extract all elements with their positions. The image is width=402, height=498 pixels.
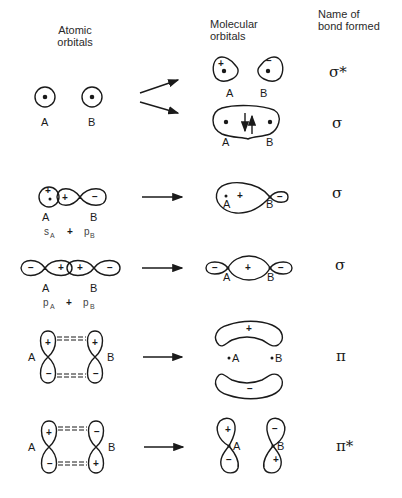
atom-label-a: A xyxy=(42,211,50,223)
atom-label-a: A xyxy=(41,116,49,128)
mo-label-b: B xyxy=(277,440,284,452)
sign-plus: + xyxy=(246,323,252,334)
sign-plus: + xyxy=(237,190,243,201)
row-p-p-axial: − + + − A B p A + p B − + − A B σ xyxy=(21,256,345,310)
arrow-up-icon xyxy=(140,80,178,93)
arrow-down-icon xyxy=(140,102,178,113)
svg-text:p: p xyxy=(43,297,49,308)
mo-label-b: B xyxy=(275,352,282,364)
mo-sigma-bonding xyxy=(213,106,279,139)
sign-minus: − xyxy=(212,262,218,273)
sign-plus: + xyxy=(92,337,98,348)
sign-minus: − xyxy=(94,426,100,437)
bond-sigma: σ xyxy=(335,256,345,274)
atomic-s-orbital-b xyxy=(82,87,102,107)
row-s-p: + + − A B s A + p B + − A B σ xyxy=(39,183,342,239)
atom-label-b: B xyxy=(88,116,95,128)
sign-plus: + xyxy=(77,262,83,273)
svg-text:A: A xyxy=(50,303,55,310)
svg-text:+: + xyxy=(67,226,73,237)
mo-label-a: A xyxy=(226,87,234,99)
sign-plus: + xyxy=(245,262,251,273)
sign-minus: − xyxy=(226,454,232,465)
atomic-s-orbital-a xyxy=(35,87,55,107)
sign-plus: + xyxy=(58,262,64,273)
sign-minus: − xyxy=(93,368,99,379)
mo-label-a: A xyxy=(232,352,240,364)
svg-text:B: B xyxy=(90,232,95,239)
row-s-s: A B + − A B σ* A B σ xyxy=(35,55,347,148)
sign-plus: + xyxy=(46,427,52,438)
svg-text:s: s xyxy=(44,226,49,237)
sign-minus: − xyxy=(266,55,272,66)
atom-label-a: A xyxy=(28,351,36,363)
sign-plus: + xyxy=(225,424,231,435)
row-pi: + − + − A B + − A B π xyxy=(28,321,346,399)
mo-label-a: A xyxy=(222,136,230,148)
atom-label-b: B xyxy=(108,441,115,453)
mo-label-b: B xyxy=(260,87,267,99)
atom-label-a: A xyxy=(28,441,36,453)
mo-label-b: B xyxy=(267,271,274,283)
bond-sigma: σ xyxy=(332,114,342,132)
combination-label: p A + p B xyxy=(43,297,95,310)
bond-pi: π xyxy=(336,347,346,365)
sign-plus: + xyxy=(62,192,68,203)
mo-label-a: A xyxy=(223,271,231,283)
sign-minus: − xyxy=(46,368,52,379)
sign-plus: + xyxy=(93,458,99,469)
mo-sigma-star-a xyxy=(213,57,238,81)
sign-plus: + xyxy=(45,337,51,348)
bond-sigma: σ xyxy=(332,184,342,202)
sign-minus: − xyxy=(278,262,284,273)
sign-minus: − xyxy=(47,458,53,469)
atom-label-b: B xyxy=(90,211,97,223)
svg-text:A: A xyxy=(50,232,55,239)
sign-minus: − xyxy=(107,262,113,273)
orbital-diagram: A B + − A B σ* A B σ + xyxy=(0,0,402,498)
atom-label-b: B xyxy=(107,351,114,363)
combination-label: s A + p B xyxy=(44,226,95,239)
bond-pi-star: π* xyxy=(336,437,354,455)
sign-plus: + xyxy=(45,185,51,196)
sign-minus: − xyxy=(28,262,34,273)
svg-text:+: + xyxy=(66,297,72,308)
row-pi-star: + − − + A B + − − + A B π* xyxy=(28,418,354,473)
mo-label-a: A xyxy=(233,440,241,452)
sign-plus: + xyxy=(218,58,224,69)
mo-label-b: B xyxy=(266,136,273,148)
sign-minus: − xyxy=(247,383,253,394)
bond-sigma-star: σ* xyxy=(329,63,347,81)
svg-text:B: B xyxy=(90,303,95,310)
atom-label-b: B xyxy=(90,282,97,294)
sign-minus: − xyxy=(277,191,283,202)
mo-label-b: B xyxy=(266,198,273,210)
sign-plus: + xyxy=(273,454,279,465)
svg-text:p: p xyxy=(83,297,89,308)
atom-label-a: A xyxy=(42,282,50,294)
sign-minus: − xyxy=(92,191,98,202)
sign-minus: − xyxy=(272,423,278,434)
mo-label-a: A xyxy=(223,198,231,210)
